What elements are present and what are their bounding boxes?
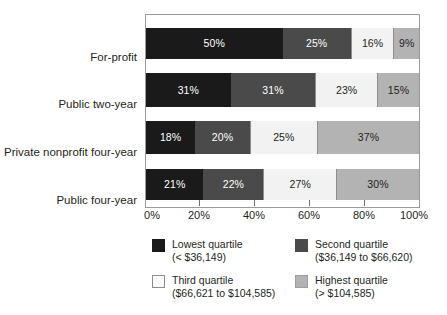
legend-item-highest-quartile[interactable]: Highest quartile (> $104,585) — [295, 274, 388, 300]
bars-layer: 50% 25% 16% 9% 31% 31% — [145, 14, 420, 208]
legend-item-text: Highest quartile (> $104,585) — [315, 274, 388, 300]
x-axis-tick-label: 60% — [298, 209, 320, 222]
x-axis-tick — [199, 200, 200, 206]
category-label-private-nonprofit-four-year: Private nonprofit four-year — [0, 146, 137, 158]
bar-segment-second-quartile[interactable]: 31% — [231, 73, 316, 107]
table-row: 18% 20% 25% 37% — [146, 121, 419, 154]
legend-item-third-quartile[interactable]: Third quartile ($66,621 to $104,585) — [152, 274, 275, 300]
bar-segment-lowest-quartile[interactable]: 18% — [146, 121, 195, 154]
bar-segment-highest-quartile[interactable]: 15% — [378, 73, 419, 107]
x-axis-tick — [364, 200, 365, 206]
bar-segment-lowest-quartile[interactable]: 31% — [146, 73, 231, 107]
bar-value-label: 21% — [164, 179, 185, 190]
legend-item-second-quartile[interactable]: Second quartile ($36,149 to $66,620) — [295, 238, 413, 264]
legend-item-range: ($36,149 to $66,620) — [315, 251, 413, 264]
legend-item-label: Lowest quartile — [172, 238, 243, 250]
legend-swatch-icon — [152, 239, 165, 252]
legend-item-text: Third quartile ($66,621 to $104,585) — [172, 274, 275, 300]
legend-item-label: Second quartile — [315, 238, 388, 250]
category-label-public-four-year: Public four-year — [0, 194, 137, 206]
bar-segment-second-quartile[interactable]: 20% — [195, 121, 250, 154]
legend-item-lowest-quartile[interactable]: Lowest quartile (< $36,149) — [152, 238, 243, 264]
bar-segment-third-quartile[interactable]: 27% — [263, 169, 337, 200]
category-axis-labels: For-profit Public two-year Private nonpr… — [0, 14, 141, 200]
bar-value-label: 18% — [160, 132, 181, 143]
legend-item-range: (> $104,585) — [315, 287, 388, 300]
bar-value-label: 37% — [358, 132, 379, 143]
bar-segment-second-quartile[interactable]: 25% — [283, 28, 351, 59]
bar-segment-second-quartile[interactable]: 22% — [203, 169, 263, 200]
x-axis-tick-label: 0% — [144, 209, 160, 222]
bar-value-label: 31% — [178, 85, 199, 96]
bar-segment-lowest-quartile[interactable]: 21% — [146, 169, 203, 200]
legend-swatch-icon — [152, 275, 165, 288]
bar-value-label: 9% — [399, 38, 414, 49]
x-axis-tick-label: 100% — [400, 209, 428, 222]
bar-value-label: 31% — [262, 85, 283, 96]
bar-segment-highest-quartile[interactable]: 37% — [318, 121, 419, 154]
bar-value-label: 25% — [306, 38, 327, 49]
bar-segment-third-quartile[interactable]: 23% — [315, 73, 378, 107]
bar-segment-third-quartile[interactable]: 25% — [250, 121, 318, 154]
legend-item-text: Second quartile ($36,149 to $66,620) — [315, 238, 413, 264]
bar-value-label: 15% — [388, 85, 409, 96]
chart-legend: Lowest quartile (< $36,149) Second quart… — [152, 238, 447, 310]
x-axis-tick — [309, 200, 310, 206]
legend-swatch-icon — [295, 275, 308, 288]
x-axis-ticks — [145, 200, 420, 208]
x-axis-tick-label: 20% — [188, 209, 210, 222]
category-label-for-profit: For-profit — [0, 51, 137, 63]
bar-value-label: 50% — [204, 38, 225, 49]
bar-segment-highest-quartile[interactable]: 9% — [394, 28, 419, 59]
bar-segment-lowest-quartile[interactable]: 50% — [146, 28, 283, 59]
category-label-public-two-year: Public two-year — [0, 98, 137, 110]
legend-item-label: Third quartile — [172, 274, 233, 286]
bar-value-label: 16% — [362, 38, 383, 49]
x-axis-tick-label: 80% — [353, 209, 375, 222]
bar-value-label: 27% — [290, 179, 311, 190]
bar-value-label: 22% — [223, 179, 244, 190]
table-row: 50% 25% 16% 9% — [146, 28, 419, 59]
x-axis-tick-labels: 0% 20% 40% 60% 80% 100% — [0, 209, 447, 225]
bar-value-label: 25% — [273, 132, 294, 143]
bar-value-label: 23% — [336, 85, 357, 96]
legend-item-text: Lowest quartile (< $36,149) — [172, 238, 243, 264]
chart-plot-area: For-profit Public two-year Private nonpr… — [0, 0, 447, 222]
stacked-bar-chart-figure: For-profit Public two-year Private nonpr… — [0, 0, 447, 315]
legend-item-range: (< $36,149) — [172, 251, 243, 264]
table-row: 31% 31% 23% 15% — [146, 73, 419, 107]
legend-swatch-icon — [295, 239, 308, 252]
table-row: 21% 22% 27% 30% — [146, 169, 419, 200]
x-axis-tick-label: 40% — [243, 209, 265, 222]
legend-item-label: Highest quartile — [315, 274, 388, 286]
bar-value-label: 20% — [212, 132, 233, 143]
legend-item-range: ($66,621 to $104,585) — [172, 287, 275, 300]
x-axis-tick — [254, 200, 255, 206]
bar-segment-third-quartile[interactable]: 16% — [351, 28, 395, 59]
bar-value-label: 30% — [367, 179, 388, 190]
bar-segment-highest-quartile[interactable]: 30% — [337, 169, 419, 200]
